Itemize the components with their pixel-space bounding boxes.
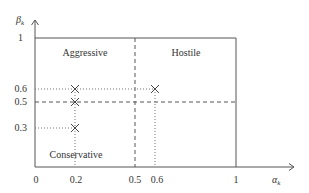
x-tick-1: 1 [234,174,239,185]
points [71,85,159,132]
x-tick-0.2: 0.2 [70,174,83,185]
x-tick-0: 0 [34,174,39,185]
x-tick-0.5: 0.5 [129,174,142,185]
x-axis-label: αk [272,174,281,187]
strategy-diagram: Aggressive Hostile Conservative 1 0.6 0.… [0,0,309,193]
y-tick-0.3: 0.3 [15,122,28,133]
region-label-conservative: Conservative [50,149,103,160]
axes [32,20,295,171]
region-label-hostile: Hostile [172,47,201,58]
region-label-aggressive: Aggressive [63,47,109,58]
y-tick-0.6: 0.6 [15,83,28,94]
y-axis-label: βk [15,14,25,27]
y-tick-1: 1 [18,32,23,43]
y-tick-0.5: 0.5 [15,96,28,107]
x-tick-0.6: 0.6 [151,174,164,185]
